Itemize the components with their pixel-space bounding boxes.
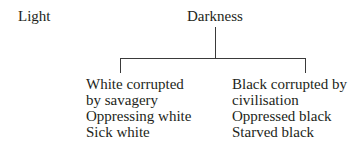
light-label: Light xyxy=(18,8,51,24)
right-branch-line xyxy=(305,58,306,73)
branch-line: civilisation xyxy=(232,92,347,108)
branch-line: by savagery xyxy=(86,92,191,108)
left-branch-line xyxy=(120,58,121,73)
branch-connector-line xyxy=(120,58,306,59)
right-branch-text: Black corrupted by civilisation Oppresse… xyxy=(232,76,347,140)
left-branch-text: White corrupted by savagery Oppressing w… xyxy=(86,76,191,140)
root-stem-line xyxy=(215,27,216,59)
branch-line: Sick white xyxy=(86,124,191,140)
branch-line: Oppressing white xyxy=(86,108,191,124)
darkness-root-label: Darkness xyxy=(187,8,243,24)
branch-line: Starved black xyxy=(232,124,347,140)
branch-line: Black corrupted by xyxy=(232,76,347,92)
branch-line: White corrupted xyxy=(86,76,191,92)
branch-line: Oppressed black xyxy=(232,108,347,124)
